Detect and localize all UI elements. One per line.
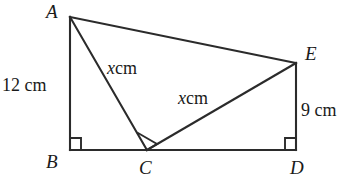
vertex-label-b: B	[46, 152, 58, 171]
segment-AE	[70, 17, 296, 63]
unit-cm-ce: cm	[186, 88, 208, 108]
segment-AC	[70, 17, 147, 150]
geometry-figure: A B C D E 12 cm 9 cm xcm xcm	[0, 0, 351, 186]
vertex-label-c: C	[139, 158, 152, 177]
length-label-ce: xcm	[178, 89, 208, 107]
vertex-label-e: E	[305, 44, 317, 63]
unit-cm-ac: cm	[115, 58, 137, 78]
length-label-ab: 12 cm	[2, 76, 47, 94]
right-angle-B	[70, 138, 81, 150]
variable-x-ac: x	[107, 58, 115, 78]
segment-CE	[147, 63, 296, 150]
length-label-ed: 9 cm	[301, 101, 337, 119]
vertex-label-a: A	[46, 2, 58, 21]
right-angle-C	[138, 133, 157, 150]
length-label-ac: xcm	[107, 59, 137, 77]
vertex-label-d: D	[290, 158, 304, 177]
right-angle-D	[285, 138, 296, 150]
variable-x-ce: x	[178, 88, 186, 108]
